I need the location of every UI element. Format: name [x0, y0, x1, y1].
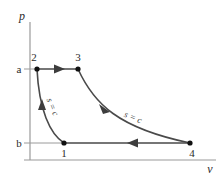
state-point-marker-4: [187, 140, 192, 145]
state-label-1: 1: [61, 147, 67, 159]
axes-group: [24, 22, 216, 160]
curve-annotations: s = c s = c: [45, 97, 144, 126]
state-label-2: 2: [31, 51, 37, 63]
y-tick-label-b: b: [16, 137, 22, 149]
pv-diagram-figure: 2 3 1 4 a b p v s = c s = c: [0, 0, 223, 176]
state-point-marker-1: [61, 140, 66, 145]
process-paths-group: [37, 69, 190, 143]
axis-tick-labels: a b: [16, 63, 22, 149]
x-axis-label: v: [207, 162, 213, 176]
state-point-marker-3: [75, 66, 80, 71]
arrow-head-1-2: [38, 99, 46, 110]
pv-diagram-svg: 2 3 1 4 a b p v s = c s = c: [0, 0, 223, 176]
state-label-4: 4: [189, 147, 195, 159]
arrow-head-2-3: [54, 65, 65, 74]
y-axis-label: p: [18, 9, 25, 23]
state-label-3: 3: [75, 51, 81, 63]
state-point-marker-2: [34, 66, 39, 71]
axis-name-labels: p v: [18, 9, 213, 176]
arrow-head-4-1: [127, 139, 138, 148]
isentropic-label-right: s = c: [123, 109, 144, 125]
process-path-3-4: [78, 69, 190, 143]
isentropic-label-left: s = c: [45, 97, 61, 118]
y-tick-label-a: a: [17, 63, 22, 75]
